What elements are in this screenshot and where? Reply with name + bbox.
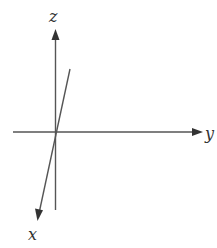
y-arrow-head-icon: [192, 128, 203, 136]
z-axis: z: [48, 7, 60, 210]
y-axis: y: [13, 124, 215, 143]
z-axis-label: z: [48, 7, 58, 26]
z-arrow-head-icon: [52, 29, 60, 40]
x-axis-line: [40, 69, 71, 211]
y-axis-label: y: [204, 124, 215, 143]
x-axis-label: x: [28, 225, 37, 244]
x-axis: x: [28, 69, 70, 244]
x-arrow-head-icon: [35, 209, 43, 222]
coordinate-axes-diagram: z y x: [0, 0, 217, 248]
